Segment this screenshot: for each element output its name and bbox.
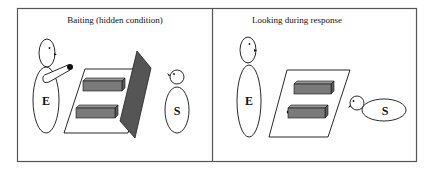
- subject-head: [170, 70, 184, 84]
- experimenter-label: E: [245, 94, 253, 108]
- subject-label: S: [174, 104, 181, 118]
- subject-nose: [167, 73, 170, 77]
- experimenter-figure: E: [33, 39, 73, 133]
- container-top: [83, 78, 125, 91]
- subject-label: S: [382, 104, 389, 118]
- experimenter-eye: [249, 43, 251, 45]
- experimenter-figure: E: [237, 37, 261, 137]
- container-bottom: [76, 105, 118, 118]
- container-top: [294, 81, 334, 94]
- platform: [269, 70, 350, 137]
- bait-object: [67, 64, 73, 70]
- panel-title: Looking during response: [252, 15, 342, 25]
- container-bottom: [287, 105, 329, 118]
- experimenter-head: [39, 39, 55, 67]
- subject-eye: [353, 100, 355, 102]
- subject-figure: S: [348, 96, 406, 121]
- panel-looking: Looking during response E: [237, 15, 406, 137]
- experimenter-eye: [49, 47, 51, 49]
- panel-baiting: Baiting (hidden condition) E: [33, 15, 189, 138]
- experimenter-label: E: [42, 94, 50, 108]
- figure-frame: [18, 9, 417, 162]
- experimenter-nose: [54, 53, 57, 56]
- subject-figure: S: [165, 70, 189, 133]
- experimenter-head: [240, 37, 256, 63]
- subject-eye: [173, 73, 175, 75]
- figure: Baiting (hidden condition) E: [0, 0, 433, 170]
- panel-title: Baiting (hidden condition): [67, 15, 162, 25]
